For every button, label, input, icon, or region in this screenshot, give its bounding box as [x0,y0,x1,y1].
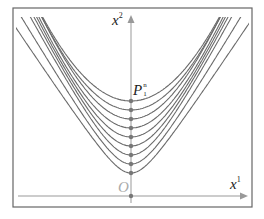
x1-arrow-icon [240,193,248,200]
vertex-dot [129,117,133,121]
origin-label: O [118,180,129,195]
vertex-dot [129,108,133,112]
vertex-dot [129,162,133,166]
vertex-dot [129,135,133,139]
point-p1n-label: Pn1 [133,83,148,98]
vertex-dot [129,153,133,157]
x1-axis-label: x1 [230,177,241,192]
vertex-dot [129,144,133,148]
vertex-dot [129,171,133,175]
vertex-dot [129,126,133,130]
x2-axis-label: x2 [112,13,123,28]
vertex-dot [129,99,133,103]
x2-arrow-icon [128,15,135,23]
hyperbola-family-diagram [0,0,264,219]
vertex-dot [129,194,133,198]
